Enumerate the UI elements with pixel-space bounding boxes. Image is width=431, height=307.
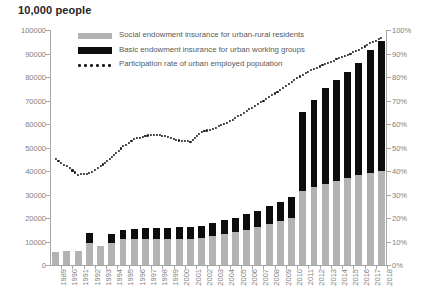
x-tick-label: 1998 xyxy=(160,269,169,286)
right-tick-mark xyxy=(387,30,391,31)
x-tick-label: 1994 xyxy=(115,269,124,286)
right-tick-label: 80% xyxy=(392,73,407,82)
rate-line-dot xyxy=(158,134,160,136)
gray-swatch-icon xyxy=(78,33,112,39)
x-tick-label: 2008 xyxy=(272,269,281,286)
rate-line-dot xyxy=(260,101,262,103)
right-tick-mark xyxy=(387,195,391,196)
rate-line-dot xyxy=(347,54,349,56)
x-tick-label: 2004 xyxy=(227,269,236,286)
x-tick-label: 2009 xyxy=(284,269,293,286)
rate-line-dot xyxy=(212,128,214,130)
rate-line-dot xyxy=(115,152,117,154)
right-tick-mark xyxy=(387,218,391,219)
x-tick-label: 2017 xyxy=(373,269,382,286)
rate-line-dot xyxy=(55,158,57,160)
rate-line-dot xyxy=(175,139,177,141)
rate-line-dot xyxy=(361,47,363,49)
right-tick-label: 50% xyxy=(392,143,407,152)
rate-line-dot xyxy=(201,131,203,133)
rate-line-dot xyxy=(150,134,152,136)
rate-line-dot xyxy=(91,171,93,173)
legend-item-participation-rate: Participation rate of urban employed pop… xyxy=(78,59,328,70)
x-tick-label: 2007 xyxy=(261,269,270,286)
x-tick-label: 2006 xyxy=(250,269,259,286)
rate-line-dot xyxy=(192,139,194,141)
rate-line-dot xyxy=(130,140,132,142)
rate-line-dot xyxy=(282,87,284,89)
rate-line-dot xyxy=(366,44,368,46)
rate-line-dot xyxy=(94,169,96,171)
rate-line-dot xyxy=(111,156,113,158)
rate-line-dot xyxy=(206,129,208,131)
rate-line-dot xyxy=(369,42,371,44)
right-tick-label: 100% xyxy=(392,26,411,35)
rate-line-dot xyxy=(80,173,82,175)
x-tick-label: 1999 xyxy=(171,269,180,286)
rate-line-dot xyxy=(194,137,196,139)
rate-line-dot xyxy=(104,161,106,163)
left-tick-label: 90000 xyxy=(25,49,46,58)
rate-line-dot xyxy=(285,85,287,87)
left-tick-label: 40000 xyxy=(25,167,46,176)
rate-line-dot xyxy=(117,150,119,152)
rate-line-dot xyxy=(352,51,354,53)
rate-line-dot xyxy=(164,135,166,137)
right-tick-label: 10% xyxy=(392,237,407,246)
x-tick-label: 2002 xyxy=(205,269,214,286)
chart-container: 10,000 people 01000020000300004000050000… xyxy=(0,0,431,307)
x-tick-label: 2011 xyxy=(306,269,315,285)
x-tick-label: 1992 xyxy=(93,269,102,286)
rate-line-dot xyxy=(178,139,180,141)
right-tick-mark xyxy=(387,124,391,125)
legend-label-participation-rate: Participation rate of urban employed pop… xyxy=(119,59,282,69)
right-tick-label: 20% xyxy=(392,214,407,223)
rate-line-dot xyxy=(85,173,87,175)
legend-item-residents: Social endowment insurance for urban-rur… xyxy=(78,30,328,40)
rate-line-dot xyxy=(254,105,256,107)
x-tick-label: 1996 xyxy=(138,269,147,286)
rate-line-dot xyxy=(215,126,217,128)
rate-line-dot xyxy=(100,165,102,167)
rate-line-dot xyxy=(378,38,380,40)
rate-line-dot xyxy=(229,120,231,122)
x-tick-label: 2016 xyxy=(362,269,371,286)
right-tick-label: 40% xyxy=(392,167,407,176)
rate-line-dot xyxy=(268,96,270,98)
x-tick-label: 2000 xyxy=(182,269,191,286)
left-tick-mark xyxy=(46,265,50,266)
left-tick-label: 50000 xyxy=(25,143,46,152)
rate-line-dot xyxy=(243,112,245,114)
x-tick-label: 2015 xyxy=(351,269,360,286)
x-tick-label: 1991 xyxy=(81,269,90,286)
rate-line-dot xyxy=(60,162,62,164)
left-tick-label: 30000 xyxy=(25,190,46,199)
right-tick-mark xyxy=(387,77,391,78)
left-tick-label: 70000 xyxy=(25,96,46,105)
right-tick-mark xyxy=(387,101,391,102)
rate-line-dot xyxy=(246,110,248,112)
left-tick-label: 60000 xyxy=(25,120,46,129)
rate-line-dot xyxy=(265,98,267,100)
y-axis-unit-title: 10,000 people xyxy=(18,4,91,16)
rate-line-dot xyxy=(144,135,146,137)
right-tick-label: 60% xyxy=(392,120,407,129)
rate-line-dot xyxy=(97,167,99,169)
rate-line-dot xyxy=(349,52,351,54)
rate-line-dot xyxy=(66,165,68,167)
rate-line-dot xyxy=(276,91,278,93)
rate-line-dot xyxy=(125,144,127,146)
rate-line-dot xyxy=(293,79,295,81)
legend-label-working-groups: Basic endowment insurance for urban work… xyxy=(119,45,305,55)
right-tick-label: 70% xyxy=(392,96,407,105)
rate-line-dot xyxy=(262,99,264,101)
dotted-line-icon xyxy=(78,60,112,70)
rate-line-dot xyxy=(290,81,292,83)
rate-line-dot xyxy=(83,173,85,175)
rate-line-dot xyxy=(102,163,104,165)
rate-line-dot xyxy=(363,45,365,47)
x-tick-label: 2010 xyxy=(295,269,304,286)
rate-line-dot xyxy=(251,107,253,109)
rate-line-dot xyxy=(120,147,122,149)
x-tick-label: 2012 xyxy=(317,269,326,286)
